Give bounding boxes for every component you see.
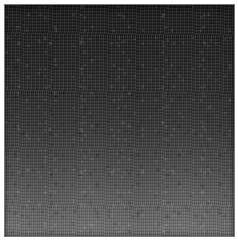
figure-canvas: Grainy grayscale texture sample, dark at… [0,0,238,244]
texture-sample-alt-text: Grainy grayscale texture sample, dark at… [0,0,1,1]
texture-sample-image [4,4,235,237]
texture-vignette-layer [4,4,235,237]
